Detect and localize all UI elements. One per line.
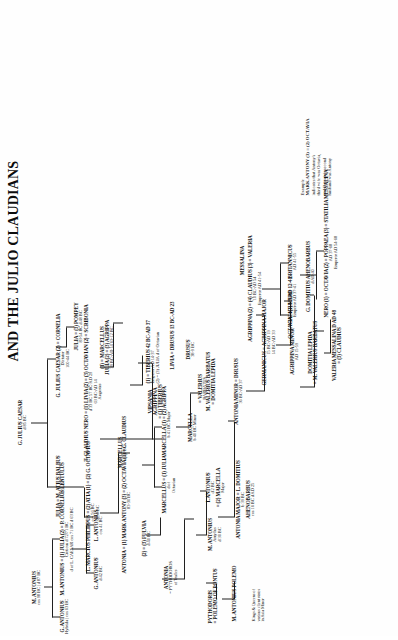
node-dates: Hybrida | cos 63 BC	[65, 591, 70, 640]
node-note: d of L. CAESAR cos 71 BC d 63 BC	[70, 483, 75, 595]
node-claudius-messalina: AGRIPPINA (2) = (4) CLAUDIUS (3) = VALER…	[248, 227, 262, 349]
connector	[184, 518, 194, 519]
node-dates: b 41 BC Major	[167, 393, 172, 455]
connector	[276, 344, 290, 345]
node-dates: 36 BC-AD 37	[239, 351, 244, 431]
node-m-antonius-elder: M. ANTONIUS cos 98 BC | d 87 BC	[32, 561, 42, 613]
node-spouse: = M. VALERIUS BARBATUS	[313, 313, 318, 391]
node-note2: Octavian	[172, 457, 177, 513]
node-m-antonius-creticus: M. ANTONIUS = (1) JULIA (2) = P. CORNELI…	[60, 483, 74, 595]
node-antonia-pythodoros: ANTONIA = PYTHODOROS of Tralles	[164, 553, 178, 601]
node-m-antonius-polemo: M. ANTONIUS POLEMO	[232, 559, 237, 621]
connector	[154, 427, 155, 487]
connector	[324, 352, 330, 353]
node-dates: AD 15-59	[295, 323, 300, 379]
node-i-antonius: I. ANTONIUS d 2 BC = (2) MARCELLA Major	[206, 463, 226, 511]
node-dates: d 30 BC	[218, 511, 223, 557]
node-nero-wives: NERO (1) = OCTAVIA (2) = POPPAEA (3) = S…	[324, 187, 338, 317]
node-g-julius-caesar-cornelia: G. JULIUS CAESAR (2) = CORNELIA Dictator…	[56, 319, 70, 397]
node-dates: 39 BC-AD 14 63-12 BC	[110, 315, 115, 379]
node-britannicus: BRITANNICUS AD 41-55	[288, 237, 298, 285]
node-livia-drusus: LIVIA = DRUSUS 13 BC-AD 23	[170, 291, 175, 379]
node-dates: cos 98 BC | d 87 BC	[37, 561, 42, 613]
node-valeria-messalina-inline: MESSALINA	[240, 237, 245, 283]
node-germanicus-agrippina: GERMANICUS = AGRIPPINA Major 15 BC-AD 19…	[262, 299, 276, 385]
node-note: d 58 BC	[96, 453, 101, 571]
connector	[280, 263, 281, 315]
node-dates: Emperor AD 41-54	[258, 227, 263, 349]
node-name: LIVIA = DRUSUS 13 BC-AD 23	[170, 291, 175, 379]
connector	[142, 355, 143, 385]
node-dates: d 40 BC	[147, 515, 152, 561]
node-antonia-major: ANTONIA Major = L. DOMITIUS b 39 BC AHEN…	[236, 451, 256, 547]
node-antonia-minor: ANTONIA Minor = DRUSUS 36 BC-AD 37	[234, 351, 244, 431]
node-fulvia: (2) = (3) FULVIA d 40 BC	[142, 515, 152, 561]
node-spouse: = (1) TIBERIUS	[158, 379, 163, 423]
node-pythodoris-polemo: PYTHODORIS = POLEMO of Pontus	[208, 565, 218, 623]
node-note: Major	[221, 463, 226, 511]
node-dates: d 40 BC	[123, 427, 128, 477]
node-name: OCTAVIA = (1) NERO	[288, 285, 293, 343]
node-g-domitius-ahenobarbus: G. DOMITIUS AHENOBARBUS d AD 40	[306, 233, 316, 319]
node-octavia-nero: OCTAVIA = (1) NERO	[288, 285, 293, 343]
node-line3: in Asia Minor	[261, 563, 266, 621]
node-kings-queens: Kings & Queens of various client states …	[252, 563, 266, 621]
node-note: of Tralles	[174, 553, 179, 601]
page-title: AND THE JULIO CLAUDIANS	[6, 160, 22, 361]
node-drusus: DRUSUS 38-9 BC	[186, 329, 196, 369]
connector	[184, 519, 185, 579]
node-domitia-lepida: DOMITIA LEPIDA = M. VALERIUS BARBATUS	[308, 313, 318, 391]
node-claudius-marcellus: MARCELLUS d 40 BC	[118, 427, 128, 477]
node-julia-marcellus-agrippa: (1) = MARCELLUS JULIA (2) = (3) AGRIPPA …	[100, 315, 115, 379]
legend-example: Example MARK ANTONY (3) = (2) OCTAVIA in…	[300, 118, 332, 195]
node-dates: 38-9 BC	[191, 329, 196, 369]
node-note: (2) = (3) JULIA d of Octavian	[156, 287, 161, 383]
node-dates: d 85 BC	[23, 393, 28, 451]
node-g-antonius-hybrida: G. ANTONIUS Hybrida | cos 63 BC	[60, 591, 70, 640]
node-dates: 83-30 BC	[127, 427, 132, 573]
connector	[196, 534, 206, 535]
node-dates: b 40 BC Minor	[193, 405, 198, 449]
connector	[142, 464, 154, 465]
node-tiberius: (1) = TIBERIUS 42 BC-AD 37 Emperor AD 14…	[146, 287, 160, 383]
connector	[44, 586, 52, 587]
node-valeria-messalina: VALERIA MESSALINA d AD 48 = (3) CLAUDIUS	[332, 299, 342, 391]
node-vipsania-agrippina-tiberius: VIPSANIA AGRIPPINA = (1) TIBERIUS	[148, 379, 164, 423]
node-name: M. ANTONIUS POLEMO	[232, 559, 237, 621]
node-dates: AD 41-55	[293, 237, 298, 285]
node-spouse: = POLEMO of Pontus	[213, 565, 218, 623]
node-note: cos 16 BC d AD 25	[251, 451, 256, 547]
node-g-julius-caesar-elder: G. JULIUS CAESAR d 85 BC	[18, 393, 28, 451]
connector	[47, 359, 48, 487]
node-note: Emperor AD 54-68	[334, 187, 339, 317]
connector	[52, 539, 53, 617]
connector	[262, 288, 280, 289]
node-marcius-philippus-atia: L. MARCIUS PHILIPPUS = (2) ATIA (1) = (2…	[86, 453, 100, 571]
node-dates: 100-44 BC	[66, 319, 71, 397]
node-name: MESSALINA	[240, 237, 245, 283]
node-marcellus-julia: MARCELLUS = (1) JULIA d of Octavian	[162, 457, 176, 513]
node-spouse: = (3) CLAUDIUS	[337, 299, 342, 391]
connector	[31, 422, 47, 423]
node-note: 14 BC-AD 33	[272, 299, 277, 385]
connector	[130, 384, 142, 385]
node-marcella-minor: MARCELLA b 40 BC Minor	[188, 405, 198, 449]
connector	[160, 517, 161, 535]
node-dates: d AD 40	[311, 233, 316, 319]
connector	[316, 251, 317, 299]
connector	[246, 390, 264, 391]
node-m-antonius-antyllus: M. ANTONIUS Antyllus d 30 BC	[208, 511, 222, 557]
legend-line-4: husband was Antony	[327, 118, 332, 195]
